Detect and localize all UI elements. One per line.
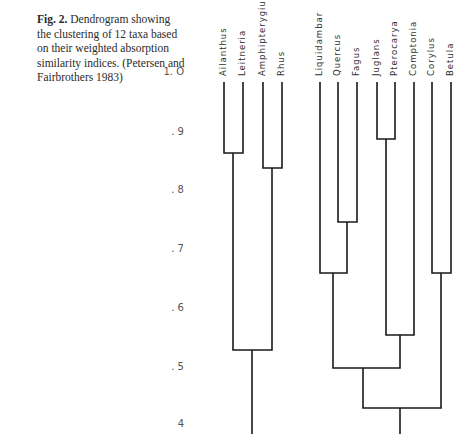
dendrogram-lines (0, 0, 464, 434)
